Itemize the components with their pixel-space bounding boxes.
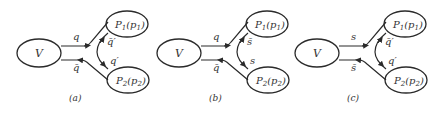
lower-line-label: q̄: [73, 62, 79, 73]
lower-quark-line: [339, 60, 386, 80]
source-label: V: [35, 47, 44, 60]
panel-caption: (a): [69, 93, 82, 103]
p1-label: P1(p1): [114, 19, 145, 32]
lower-line-label: q̄: [213, 62, 219, 73]
upper-loop-label: q̄′: [385, 36, 394, 47]
panel-b: V q q̄ s̄ s P1(p1) P2(p2) (b): [157, 11, 289, 103]
upper-line-label: q: [73, 31, 79, 42]
upper-loop-label: q̄′: [107, 36, 116, 47]
lower-quark-line: [201, 60, 248, 80]
feynman-diagram-figure: V q q̄ q̄′ q′ P1(p1) P2(p2) (a) V q q̄ s…: [0, 0, 444, 114]
p1-label: P1(p1): [254, 19, 285, 32]
lower-loop-label: s: [250, 55, 255, 66]
p2-label: P2(p2): [393, 75, 424, 88]
lower-line-label: s̄: [351, 62, 357, 73]
lower-quark-line: [61, 60, 108, 80]
lower-loop-label: q′: [388, 55, 397, 66]
p2-label: P2(p2): [115, 75, 146, 88]
panel-c: V s s̄ q̄′ q′ P1(p1) P2(p2) (c): [295, 11, 427, 103]
panel-caption: (b): [209, 93, 222, 103]
source-label: V: [313, 47, 322, 60]
source-label: V: [175, 47, 184, 60]
lower-loop-label: q′: [110, 55, 119, 66]
p1-label: P1(p1): [392, 19, 423, 32]
upper-line-label: q: [213, 31, 219, 42]
upper-line-label: s: [351, 31, 356, 42]
upper-loop-label: s̄: [247, 36, 253, 47]
panel-caption: (c): [347, 93, 360, 103]
panel-a: V q q̄ q̄′ q′ P1(p1) P2(p2) (a): [17, 11, 149, 103]
p2-label: P2(p2): [255, 75, 286, 88]
